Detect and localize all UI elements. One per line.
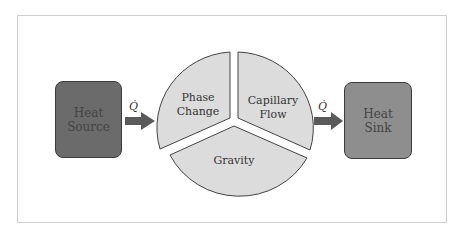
segment-label: Gravity (214, 154, 256, 167)
segment-label: Flow (259, 108, 287, 121)
heat-flow-in-label: Q̇ (129, 100, 138, 113)
segment-label: Change (177, 105, 220, 118)
segment-label: Capillary (248, 94, 299, 107)
segment-label: Phase (181, 91, 214, 104)
circle-diagram: Phase Change Capillary Flow Gravity (0, 0, 467, 233)
arrow-in-icon (125, 112, 155, 130)
arrow-out-icon (314, 112, 343, 130)
heat-flow-out-label: Q̇ (318, 100, 327, 113)
